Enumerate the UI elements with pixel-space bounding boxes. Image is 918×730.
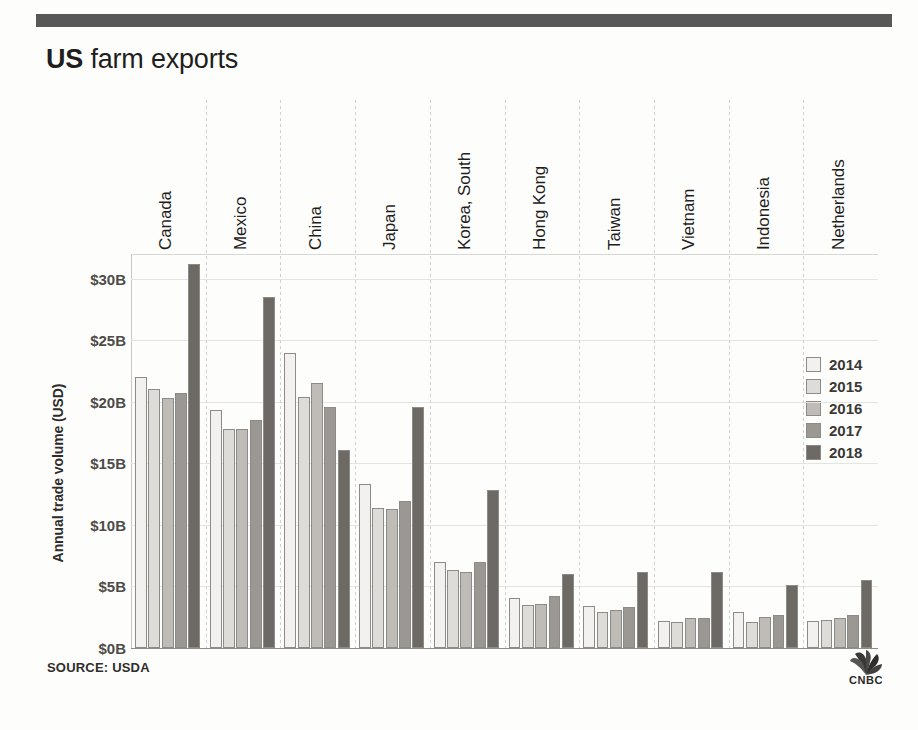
bar[interactable] <box>359 484 371 648</box>
category-label-holder: Vietnam <box>654 100 729 254</box>
category-label-holder: Indonesia <box>729 100 804 254</box>
bar[interactable] <box>188 264 200 648</box>
x-tick-label: Canada <box>156 100 176 250</box>
bar[interactable] <box>522 605 534 648</box>
category-label-holder: Korea, South <box>430 100 505 254</box>
bar[interactable] <box>263 297 275 648</box>
category-label-holder: Hong Kong <box>505 100 580 254</box>
y-tick-label: $20B <box>40 393 126 410</box>
bar[interactable] <box>460 572 472 648</box>
source-note: SOURCE: USDA <box>47 660 150 675</box>
bar[interactable] <box>250 420 262 648</box>
bar[interactable] <box>583 606 595 648</box>
bar[interactable] <box>338 450 350 648</box>
category-label-holder: Mexico <box>206 100 281 254</box>
bar-group <box>355 254 430 648</box>
bar[interactable] <box>821 620 833 648</box>
bar[interactable] <box>298 397 310 648</box>
bar[interactable] <box>223 429 235 648</box>
bar[interactable] <box>487 490 499 648</box>
bar[interactable] <box>610 610 622 648</box>
bar[interactable] <box>658 621 670 648</box>
bar[interactable] <box>210 410 222 648</box>
bar[interactable] <box>399 501 411 648</box>
chart-page: US farm exports Annual trade volume (USD… <box>0 0 918 730</box>
x-tick-label: Taiwan <box>605 100 625 250</box>
y-axis-tick-labels: $0B$5B$10B$15B$20B$25B$30B <box>34 0 126 730</box>
bar[interactable] <box>746 622 758 648</box>
bar[interactable] <box>148 389 160 648</box>
bar[interactable] <box>135 377 147 648</box>
bar[interactable] <box>434 562 446 648</box>
y-tick-label: $25B <box>40 332 126 349</box>
bar[interactable] <box>549 596 561 648</box>
bar-group <box>505 254 580 648</box>
bar[interactable] <box>597 612 609 648</box>
y-tick-label: $30B <box>40 270 126 287</box>
bar-group <box>579 254 654 648</box>
bar[interactable] <box>671 622 683 648</box>
bar[interactable] <box>861 580 873 648</box>
bar[interactable] <box>759 617 771 648</box>
bar[interactable] <box>535 604 547 648</box>
bar[interactable] <box>311 383 323 648</box>
y-tick-label: $10B <box>40 516 126 533</box>
category-label-holder: Canada <box>131 100 206 254</box>
bar-group <box>729 254 804 648</box>
category-label-holder: Netherlands <box>803 100 878 254</box>
bar[interactable] <box>175 393 187 648</box>
cnbc-logo: CNBC <box>835 648 897 692</box>
bar[interactable] <box>372 508 384 648</box>
bar[interactable] <box>236 429 248 648</box>
bar-group <box>803 254 878 648</box>
x-tick-label: Vietnam <box>679 100 699 250</box>
bar[interactable] <box>623 607 635 648</box>
bar[interactable] <box>284 353 296 649</box>
y-tick-label: $5B <box>40 578 126 595</box>
bar[interactable] <box>637 572 649 648</box>
bar[interactable] <box>711 572 723 648</box>
x-tick-label: Indonesia <box>754 100 774 250</box>
category-label-holder: Japan <box>355 100 430 254</box>
cnbc-wordmark: CNBC <box>835 674 897 686</box>
category-label-holder: China <box>280 100 355 254</box>
bar[interactable] <box>773 615 785 648</box>
bar[interactable] <box>162 398 174 648</box>
bar[interactable] <box>834 618 846 648</box>
x-tick-label: Japan <box>380 100 400 250</box>
bar[interactable] <box>685 618 697 648</box>
bar[interactable] <box>386 509 398 648</box>
bar[interactable] <box>786 585 798 648</box>
bar[interactable] <box>412 407 424 648</box>
y-tick-label: $0B <box>40 640 126 657</box>
bar[interactable] <box>562 574 574 648</box>
bar[interactable] <box>474 562 486 648</box>
x-tick-label: Korea, South <box>455 100 475 250</box>
bar-group <box>206 254 281 648</box>
bar[interactable] <box>847 615 859 648</box>
bar-group <box>131 254 206 648</box>
x-axis-baseline <box>131 648 878 649</box>
bar[interactable] <box>447 570 459 648</box>
bar-group <box>280 254 355 648</box>
bar[interactable] <box>324 407 336 648</box>
bar[interactable] <box>698 618 710 648</box>
x-tick-label: Mexico <box>231 100 251 250</box>
bar-group <box>654 254 729 648</box>
bar[interactable] <box>807 621 819 648</box>
y-tick-label: $15B <box>40 455 126 472</box>
category-label-holder: Taiwan <box>579 100 654 254</box>
bar[interactable] <box>733 612 745 648</box>
x-tick-label: Hong Kong <box>530 100 550 250</box>
bar[interactable] <box>509 598 521 648</box>
bar-group <box>430 254 505 648</box>
x-tick-label: China <box>306 100 326 250</box>
x-tick-label: Netherlands <box>829 100 849 250</box>
header-rule <box>36 14 892 27</box>
cnbc-peacock-icon <box>846 648 886 675</box>
